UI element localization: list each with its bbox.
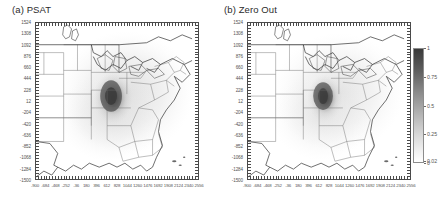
x-tick-label-zero-out: 180 bbox=[295, 183, 302, 188]
y-tick-label-zero-out: -420 bbox=[234, 121, 243, 126]
y-tick-label-zero-out: 228 bbox=[236, 87, 243, 92]
colorbar: 10.750.50.250.020 bbox=[413, 48, 445, 163]
y-tick-label-zero-out: 12 bbox=[238, 99, 243, 104]
colorbar-gradient bbox=[413, 48, 424, 163]
x-tick-label-psat: 1476 bbox=[143, 183, 152, 188]
x-tick-label-zero-out: 2340 bbox=[396, 183, 405, 188]
colorbar-tick-label: 0.75 bbox=[427, 74, 437, 80]
panel-title-psat: (a) PSAT bbox=[12, 4, 51, 15]
y-tick-label-zero-out: 660 bbox=[236, 65, 243, 70]
colorbar-tick bbox=[424, 161, 426, 162]
x-tick-label-psat: -468 bbox=[52, 183, 60, 188]
x-tick-label-psat: -36 bbox=[73, 183, 79, 188]
x-tick-label-zero-out: 1908 bbox=[376, 183, 385, 188]
y-tick-label-psat: 12 bbox=[26, 99, 31, 104]
y-tick-label-zero-out: -636 bbox=[234, 132, 243, 137]
x-tick-label-zero-out: 2556 bbox=[407, 183, 416, 188]
x-tick-label-psat: 2340 bbox=[184, 183, 193, 188]
y-tick-label-zero-out: 1092 bbox=[233, 42, 243, 47]
x-tick-label-zero-out: 828 bbox=[326, 183, 333, 188]
y-tick-label-zero-out: 1308 bbox=[233, 31, 243, 36]
x-tick-label-zero-out: 1476 bbox=[355, 183, 364, 188]
x-tick-label-psat: 1908 bbox=[164, 183, 173, 188]
y-tick-label-psat: 444 bbox=[24, 76, 31, 81]
x-tick-label-psat: 2556 bbox=[195, 183, 204, 188]
y-tick-label-psat: 1308 bbox=[21, 31, 31, 36]
x-axis-labels-psat: -900-684-468-252-36180396612828104412601… bbox=[35, 183, 199, 193]
map-plot-zero-out bbox=[247, 22, 411, 180]
y-tick-label-psat: -852 bbox=[22, 144, 31, 149]
y-tick-label-zero-out: 876 bbox=[236, 53, 243, 58]
x-tick-label-psat: -900 bbox=[31, 183, 39, 188]
panel-title-zero-out: (b) Zero Out bbox=[224, 4, 277, 15]
x-tick-label-psat: 180 bbox=[83, 183, 90, 188]
colorbar-tick-labels: 10.750.50.250.020 bbox=[424, 48, 445, 163]
y-tick-label-psat: -1284 bbox=[20, 166, 31, 171]
x-tick-label-zero-out: -468 bbox=[264, 183, 272, 188]
y-tick-label-psat: 228 bbox=[24, 87, 31, 92]
colorbar-tick bbox=[424, 48, 426, 49]
colorbar-tick-label: 0.25 bbox=[427, 131, 437, 137]
y-axis-labels-psat: 15241308109287666044422812-204-420-636-8… bbox=[4, 22, 33, 180]
colorbar-tick-label: 0.5 bbox=[427, 103, 434, 109]
x-tick-label-zero-out: -36 bbox=[285, 183, 291, 188]
x-tick-label-zero-out: 396 bbox=[305, 183, 312, 188]
x-tick-label-zero-out: 612 bbox=[315, 183, 322, 188]
x-tick-label-zero-out: -900 bbox=[243, 183, 251, 188]
y-tick-label-psat: -1500 bbox=[20, 178, 31, 183]
x-tick-label-psat: 2124 bbox=[174, 183, 183, 188]
y-tick-label-psat: 660 bbox=[24, 65, 31, 70]
y-tick-label-zero-out: -852 bbox=[234, 144, 243, 149]
x-tick-label-psat: -252 bbox=[62, 183, 70, 188]
x-tick-label-psat: 1692 bbox=[154, 183, 163, 188]
x-tick-label-zero-out: -252 bbox=[274, 183, 282, 188]
panel-psat: (a) PSAT 15241308109287666044422812-204-… bbox=[4, 0, 204, 208]
y-tick-label-psat: -420 bbox=[22, 121, 31, 126]
colorbar-tick bbox=[424, 134, 426, 135]
y-tick-label-zero-out: -204 bbox=[234, 110, 243, 115]
x-tick-label-zero-out: 1044 bbox=[335, 183, 344, 188]
y-axis-labels-zero-out: 15241308109287666044422812-204-420-636-8… bbox=[216, 22, 245, 180]
x-tick-label-zero-out: -684 bbox=[253, 183, 261, 188]
y-tick-label-zero-out: -1284 bbox=[232, 166, 243, 171]
x-tick-label-psat: 1260 bbox=[133, 183, 142, 188]
y-tick-label-zero-out: -1068 bbox=[232, 155, 243, 160]
x-tick-label-psat: 396 bbox=[93, 183, 100, 188]
y-tick-label-psat: -636 bbox=[22, 132, 31, 137]
x-tick-label-psat: 1044 bbox=[123, 183, 132, 188]
y-tick-label-zero-out: 1524 bbox=[233, 20, 243, 25]
colorbar-tick bbox=[424, 77, 426, 78]
x-axis-labels-zero-out: -900-684-468-252-36180396612828104412601… bbox=[247, 183, 411, 193]
y-tick-label-psat: 1524 bbox=[21, 20, 31, 25]
y-tick-label-zero-out: 444 bbox=[236, 76, 243, 81]
y-tick-label-psat: -204 bbox=[22, 110, 31, 115]
y-tick-label-zero-out: -1500 bbox=[232, 178, 243, 183]
x-tick-label-zero-out: 2124 bbox=[386, 183, 395, 188]
x-tick-label-psat: -684 bbox=[41, 183, 49, 188]
figure-canvas: (a) PSAT 15241308109287666044422812-204-… bbox=[0, 0, 445, 208]
map-plot-psat bbox=[35, 22, 199, 180]
x-tick-label-psat: 612 bbox=[103, 183, 110, 188]
colorbar-tick-label: 0 bbox=[427, 160, 430, 166]
y-tick-label-psat: -1068 bbox=[20, 155, 31, 160]
map-rendering-zero-out bbox=[248, 23, 410, 179]
map-rendering-psat bbox=[36, 23, 198, 179]
x-tick-label-psat: 828 bbox=[114, 183, 121, 188]
x-tick-label-zero-out: 1260 bbox=[345, 183, 354, 188]
panel-zero-out: (b) Zero Out 15241308109287666044422812-… bbox=[216, 0, 416, 208]
x-tick-label-zero-out: 1692 bbox=[366, 183, 375, 188]
colorbar-tick bbox=[424, 106, 426, 107]
colorbar-tick-label: 1 bbox=[427, 45, 430, 51]
colorbar-tick bbox=[424, 163, 426, 164]
y-tick-label-psat: 1092 bbox=[21, 42, 31, 47]
y-tick-label-psat: 876 bbox=[24, 53, 31, 58]
